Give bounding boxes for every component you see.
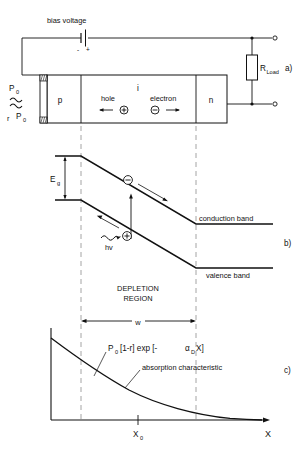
incident-power-subscript: 0 xyxy=(16,89,19,95)
light-wave-icon xyxy=(10,98,22,108)
depletion-width-dimension: w xyxy=(81,318,196,327)
electron-label: electron xyxy=(150,94,176,103)
absorption-formula: P 0 [1-r] exp [- α D X] xyxy=(108,344,204,355)
load-resistor-label: R xyxy=(260,64,266,73)
left-wire-riser xyxy=(22,38,40,75)
formula-bracket: [1-r] exp [- xyxy=(120,344,158,353)
bottom-contact-hatch xyxy=(40,117,47,123)
x0-subscript: 0 xyxy=(140,435,143,441)
hole-in-band-icon xyxy=(123,232,132,241)
panel-label-a: a) xyxy=(285,64,293,73)
incident-power-label: P xyxy=(9,84,15,93)
reflected-power-label: P xyxy=(16,112,22,121)
formula-p-subscript: 0 xyxy=(115,349,118,355)
hole-label: hole xyxy=(101,94,115,103)
bandgap-arrow xyxy=(63,157,66,200)
depletion-caption-line2: REGION xyxy=(123,294,152,303)
reflected-power-subscript: 0 xyxy=(23,117,26,123)
bandgap-label: E xyxy=(50,175,56,184)
load-resistor-subscript: Load xyxy=(267,69,279,75)
depletion-region-caption: DEPLETION REGION xyxy=(117,284,159,303)
region-label-p: p xyxy=(58,96,63,105)
battery-plus-label: + xyxy=(86,46,90,53)
depletion-caption-line1: DEPLETION xyxy=(117,284,159,293)
device-body: p i n hole electron xyxy=(40,75,252,123)
bottom-terminal-node xyxy=(273,102,277,106)
formula-tail: X] xyxy=(196,344,204,353)
curve-label-leader-line xyxy=(125,370,140,388)
hole-drift-arrow xyxy=(97,216,119,228)
region-label-i: i xyxy=(137,84,139,93)
hole-charge-icon xyxy=(120,106,128,114)
x-axis-label: X xyxy=(265,429,271,439)
battery-symbol xyxy=(81,30,86,47)
bias-voltage-label: bias voltage xyxy=(47,16,86,25)
x0-label: X xyxy=(133,430,139,439)
band-diagram-panel: E g hv conduct xyxy=(50,156,292,280)
electron-in-band-icon xyxy=(124,176,133,185)
x-axis-arrowhead xyxy=(263,417,270,422)
valence-band-label: valence band xyxy=(206,271,250,280)
formula-alpha-subscript: D xyxy=(191,349,195,355)
reflected-prefix-label: r xyxy=(7,114,10,123)
load-resistor-symbol xyxy=(247,55,258,80)
conduction-band-label: conduction band xyxy=(199,214,253,223)
top-terminal-node xyxy=(273,36,277,40)
panel-label-b: b) xyxy=(284,239,292,248)
photon-energy-label: hv xyxy=(105,243,113,252)
pin-photodiode-figure: bias voltage - + R Load a) xyxy=(0,0,305,455)
device-outline xyxy=(47,75,227,123)
photon-wave-icon xyxy=(101,236,121,240)
absorption-panel: P 0 [1-r] exp [- α D X] absorption chara… xyxy=(51,328,291,441)
optical-input-labels: P 0 r P 0 xyxy=(7,84,26,123)
absorption-curve-label: absorption characteristic xyxy=(142,363,222,372)
electron-charge-icon xyxy=(151,106,159,114)
optical-window xyxy=(40,75,47,123)
region-label-n: n xyxy=(209,96,214,105)
valence-band-curve xyxy=(55,200,273,268)
top-contact-hatch xyxy=(40,75,47,81)
panel-label-c: c) xyxy=(284,366,291,375)
depletion-width-label: w xyxy=(134,318,141,327)
bandgap-subscript: g xyxy=(57,180,60,186)
formula-p: P xyxy=(108,344,114,353)
junction-dot-top xyxy=(250,36,253,39)
depletion-guide-lines xyxy=(81,126,196,420)
battery-minus-label: - xyxy=(77,46,79,53)
formula-alpha: α xyxy=(185,344,190,353)
